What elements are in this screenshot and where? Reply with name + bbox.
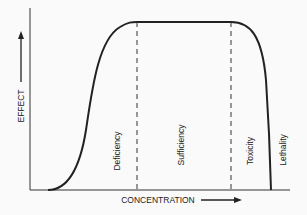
lethality-label: Lethality (278, 133, 288, 165)
right-arrow-icon (234, 197, 242, 203)
x-axis-label: CONCENTRATION (121, 195, 195, 205)
sufficiency-label: Sufficiency (176, 124, 186, 166)
dose-response-chart: Deficiency Sufficiency Toxicity Lethalit… (0, 0, 307, 215)
y-axis-label: EFFECT (16, 89, 26, 122)
response-curve (48, 22, 271, 190)
toxicity-label: Toxicity (245, 136, 255, 165)
up-arrow-icon (18, 31, 24, 39)
deficiency-label: Deficiency (112, 131, 122, 171)
